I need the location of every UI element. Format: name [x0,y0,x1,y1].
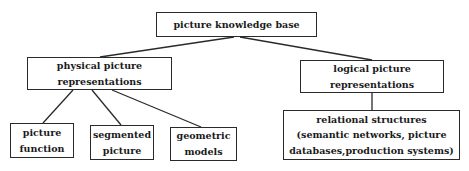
node-label-line1: picture [23,125,61,141]
node-label-line1: relational structures [316,112,426,128]
node-picture-function: picture function [10,123,74,158]
node-geometric-models: geometric models [170,127,237,161]
node-label-line2: function [20,141,65,157]
node-logical-picture-representations: logical picture representations [300,60,444,93]
node-label-line3: databases,production systems) [289,143,454,159]
node-label-line2: models [184,144,222,160]
node-physical-picture-representations: physical picture representations [27,57,172,90]
node-label-line1: segmented [93,127,151,143]
node-label-line2: representations [330,77,414,93]
node-label-line1: logical picture [333,61,410,77]
node-label-line2: representations [57,74,141,90]
node-segmented-picture: segmented picture [90,125,154,160]
edge-physical-geometric-models [112,90,201,127]
node-label-line2: (semantic networks, picture [297,127,447,143]
edge-physical-picture-function [43,90,73,123]
node-label-line1: physical picture [57,58,142,74]
node-relational-structures: relational structures (semantic networks… [283,110,460,160]
node-picture-knowledge-base: picture knowledge base [156,12,317,37]
edge-root-logical [240,37,372,60]
edge-root-physical [100,37,234,57]
node-label: picture knowledge base [173,17,299,33]
node-label-line2: picture [103,143,141,159]
edge-physical-segmented-picture [92,90,121,125]
node-label-line1: geometric [177,128,231,144]
